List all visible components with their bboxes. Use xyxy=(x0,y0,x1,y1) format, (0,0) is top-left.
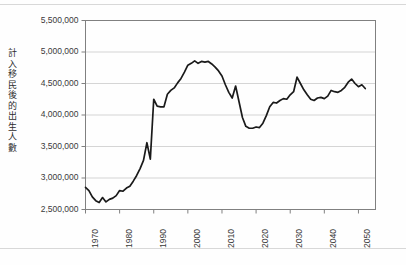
data-series-line xyxy=(86,61,366,203)
y-axis-ticks xyxy=(82,21,86,210)
chart-canvas xyxy=(0,0,406,265)
x-axis-ticks xyxy=(86,210,359,214)
line-chart-figure: 計入移民後的出生人數 2,500,0003,000,0003,500,0004,… xyxy=(0,0,406,265)
scanned-page: 計入移民後的出生人數 2,500,0003,000,0003,500,0004,… xyxy=(0,0,406,265)
gridlines xyxy=(86,52,376,178)
